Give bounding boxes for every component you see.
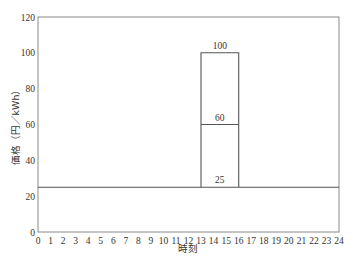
x-tick-label: 17 — [246, 236, 256, 246]
x-tick-label: 2 — [61, 236, 66, 246]
x-tick-label: 3 — [73, 236, 78, 246]
y-axis-ticks: 020406080100120 — [21, 13, 36, 238]
plot-frame — [38, 17, 339, 232]
x-tick-label: 4 — [86, 236, 91, 246]
x-tick-label: 21 — [297, 236, 307, 246]
y-tick-label: 0 — [30, 228, 35, 238]
x-tick-label: 23 — [322, 236, 332, 246]
x-tick-label: 19 — [272, 236, 282, 246]
y-axis-label: 価格（円／kWh） — [10, 85, 21, 166]
x-tick-label: 9 — [149, 236, 154, 246]
x-tick-label: 0 — [36, 236, 41, 246]
series-lines — [38, 53, 339, 187]
x-tick-label: 24 — [334, 236, 344, 246]
x-tick-label: 7 — [123, 236, 128, 246]
x-axis-label: 時刻 — [178, 243, 198, 254]
annotation-60: 60 — [215, 113, 225, 123]
annotation-100: 100 — [213, 41, 228, 51]
x-tick-label: 15 — [221, 236, 231, 246]
y-tick-label: 80 — [26, 84, 36, 94]
x-tick-label: 5 — [98, 236, 103, 246]
x-tick-label: 6 — [111, 236, 116, 246]
x-tick-label: 10 — [159, 236, 169, 246]
x-tick-label: 20 — [284, 236, 294, 246]
x-tick-label: 1 — [48, 236, 53, 246]
y-tick-label: 120 — [21, 13, 36, 23]
annotation-25: 25 — [215, 175, 225, 185]
y-tick-label: 100 — [21, 48, 36, 58]
annotations: 100 60 25 — [213, 41, 228, 185]
x-tick-label: 16 — [234, 236, 244, 246]
y-tick-label: 60 — [26, 120, 36, 130]
price-chart: 020406080100120 012345678910111213141516… — [0, 0, 353, 264]
x-tick-label: 18 — [259, 236, 269, 246]
y-tick-label: 20 — [26, 192, 36, 202]
y-tick-label: 40 — [26, 156, 36, 166]
x-tick-label: 14 — [209, 236, 219, 246]
x-tick-label: 22 — [309, 236, 319, 246]
plot-border — [38, 17, 339, 232]
x-tick-label: 8 — [136, 236, 141, 246]
